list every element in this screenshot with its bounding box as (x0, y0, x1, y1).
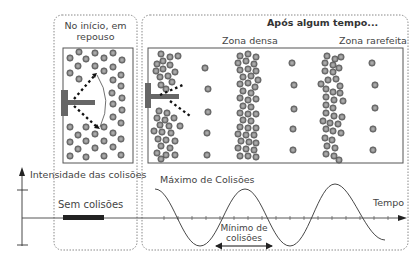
left-panel-title-line2: repouso (54, 32, 137, 43)
min-collisions-label: Mínimo de colisões (210, 223, 278, 244)
left-panel-title: No início, em repouso (54, 21, 137, 43)
max-collisions-label: Máximo de Colisões (160, 175, 255, 186)
x-axis-arrow-icon (398, 215, 407, 221)
zone-sparse-label: Zona rarefeita (339, 36, 407, 47)
right-panel-title: Após algum tempo... (267, 18, 378, 29)
time-axis-label: Tempo (373, 198, 404, 209)
no-collisions-label: Sem colisões (58, 199, 123, 211)
y-axis-label: Intensidade das colisões (30, 170, 146, 181)
min-collisions-label-line2: colisões (210, 233, 278, 243)
right-container (148, 48, 403, 163)
y-axis-arrow-icon (19, 167, 25, 176)
no-collisions-bar (63, 215, 104, 220)
min-collisions-label-line1: Mínimo de (210, 223, 278, 233)
zone-dense-label: Zona densa (222, 36, 278, 47)
